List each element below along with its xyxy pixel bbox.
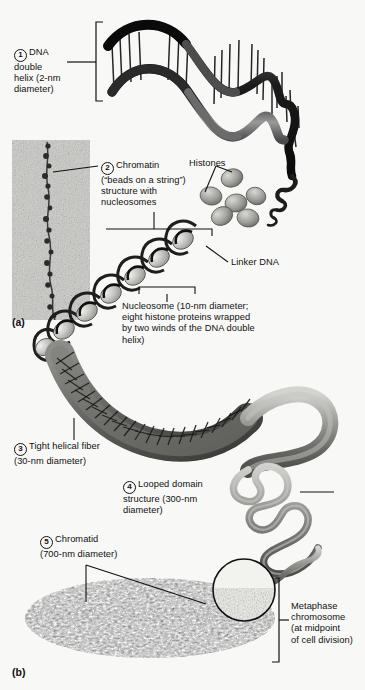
step-number-2: 2 xyxy=(101,162,114,175)
step-number-5: 5 xyxy=(40,536,53,549)
chromatin-micrograph xyxy=(12,140,90,320)
step-number-1: 1 xyxy=(14,49,27,62)
step-number-3: 3 xyxy=(14,443,27,456)
label-step1: 1DNA double helix (2-nm diameter) xyxy=(14,47,72,95)
panel-label-b: (b) xyxy=(12,666,25,678)
panel-label-a: (a) xyxy=(12,316,25,328)
label-linker-dna: Linker DNA xyxy=(231,257,279,268)
figure-canvas: 1DNA double helix (2-nm diameter) 2Chrom… xyxy=(0,0,365,690)
bracket-chromatin xyxy=(106,212,212,236)
label-histones: Histones xyxy=(189,158,226,169)
histone-proteins xyxy=(198,166,268,229)
leader-linker-dna xyxy=(206,246,228,262)
label-step5: 5Chromatid (700-nm diameter) xyxy=(40,534,160,560)
label-step3-text: Tight helical fiber (30-nm diameter) xyxy=(14,441,100,466)
bracket-nucleosome xyxy=(139,287,195,302)
tight-helical-fiber-30nm xyxy=(56,352,250,447)
metaphase-chromatid-700nm xyxy=(20,559,285,663)
label-nucleosome: Nucleosome (10-nm diameter; eight histon… xyxy=(122,301,302,346)
step-number-4: 4 xyxy=(123,481,136,494)
label-step4: 4Looped domain structure (300-nm diamete… xyxy=(123,479,227,516)
label-step2: 2Chromatin (“beads on a string”) structu… xyxy=(101,160,197,208)
label-step3: 3Tight helical fiber (30-nm diameter) xyxy=(14,441,142,467)
label-metaphase-chromosome: Metaphase chromosome (at midpoint of cel… xyxy=(291,601,365,646)
chromatid-inset-magnifier xyxy=(213,559,275,622)
looped-domain-300nm xyxy=(233,394,330,586)
bracket-step1 xyxy=(76,22,103,101)
